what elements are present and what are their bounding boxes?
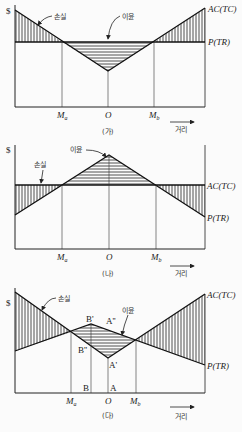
- profit-area: [62, 42, 154, 71]
- y-axis-label: $: [6, 145, 11, 155]
- ac-label: AC(TC): [207, 4, 237, 14]
- ac-label: AC(TC): [206, 181, 236, 191]
- tick-ma: Ma: [65, 396, 77, 407]
- loss-label: 손실: [54, 12, 66, 21]
- tick-ma: Ma: [56, 110, 68, 121]
- tick-ma: Ma: [56, 252, 68, 263]
- ac-label: AC(TC): [206, 290, 236, 300]
- x-axis-label: 거리: [175, 269, 187, 278]
- panel-na: $ 손실 이윤 AC(TC) P(TR) Ma O Mb 거리 (나): [6, 145, 236, 278]
- panel-caption: (다): [102, 411, 114, 420]
- tick-mb: Mb: [129, 396, 141, 407]
- profit-label: 이윤: [70, 145, 83, 154]
- profit-label: 이윤: [122, 12, 135, 21]
- loss-label: 손실: [58, 294, 70, 303]
- panel-da: $ 손실 이윤 B' B'' A' A'' B A AC(TC) P(TR) M…: [6, 288, 236, 421]
- tick-o: O: [105, 110, 112, 120]
- p-label: P(TR): [206, 361, 229, 371]
- panel-ga: $ 손실 이윤 AC(TC) P(TR) Ma O Mb 거리 (가): [6, 4, 237, 136]
- loss-label: 손실: [34, 160, 46, 169]
- tick-o: O: [105, 396, 112, 406]
- p-label: P(TR): [206, 213, 229, 223]
- panel-caption: (나): [102, 269, 114, 278]
- point-a: A: [110, 383, 117, 393]
- tick-o: O: [106, 252, 113, 262]
- tick-mb: Mb: [150, 252, 162, 263]
- spatial-profit-diagrams: $ 손실 이윤 AC(TC) P(TR) Ma O Mb 거리 (가) $ 손실…: [0, 0, 242, 432]
- point-b-prime: B': [86, 314, 94, 324]
- point-b-double-prime: B'': [78, 345, 88, 355]
- loss-area-right: [136, 294, 205, 365]
- point-a-double-prime: A'': [106, 316, 116, 326]
- x-axis-label: 거리: [175, 125, 187, 134]
- panel-caption: (가): [102, 127, 114, 136]
- y-axis-label: $: [6, 298, 11, 308]
- point-b: B: [83, 383, 89, 393]
- tick-mb: Mb: [148, 110, 160, 121]
- p-label: P(TR): [207, 37, 230, 47]
- y-axis-label: $: [6, 6, 11, 16]
- x-axis-label: 거리: [175, 412, 187, 421]
- point-a-prime: A': [109, 360, 117, 370]
- profit-label: 이윤: [122, 306, 135, 315]
